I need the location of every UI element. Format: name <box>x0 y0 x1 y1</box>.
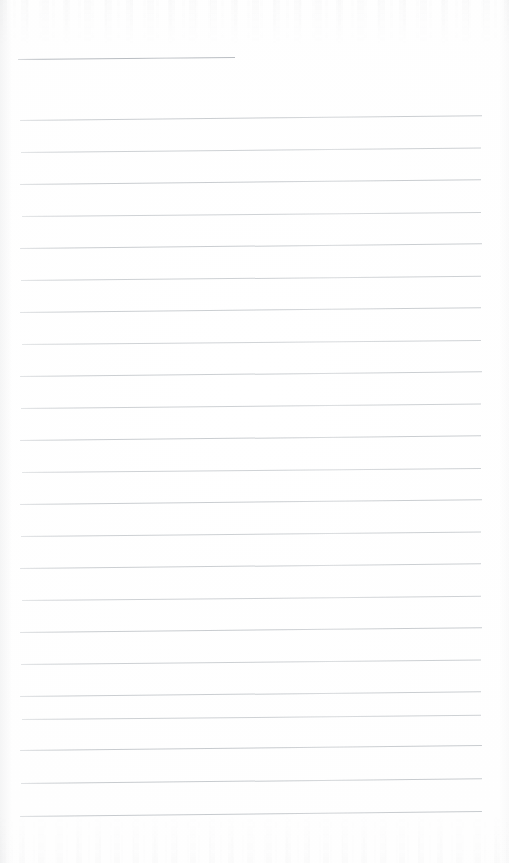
scanned-page <box>0 0 509 863</box>
paper-surface <box>0 0 509 863</box>
